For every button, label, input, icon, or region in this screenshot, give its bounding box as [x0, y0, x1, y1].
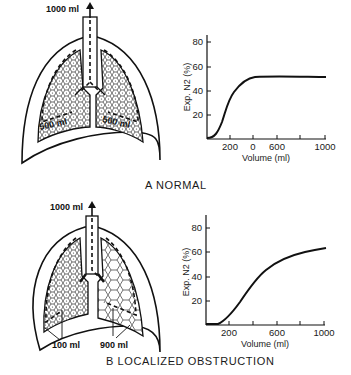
inflow-volume-label: 1000 ml — [50, 202, 83, 212]
svg-text:20: 20 — [192, 109, 203, 120]
obstruction-curve — [206, 248, 326, 324]
trachea — [86, 216, 98, 274]
panel-a-graphics: 1000 ml 500 ml 500 ml 20 40 60 80 200 0 — [0, 0, 351, 195]
chart-normal: 20 40 60 80 200 0 600 1000 Volume (ml) E… — [182, 35, 336, 163]
lung-diagram-normal: 1000 ml 500 ml 500 ml — [22, 2, 160, 163]
svg-text:Volume (ml): Volume (ml) — [241, 339, 289, 349]
svg-text:200: 200 — [221, 327, 237, 338]
right-volume-label: 900 ml — [100, 340, 128, 350]
outflow-arrow-icon — [86, 2, 94, 9]
right-lung-overdistended — [98, 238, 143, 336]
normal-curve — [207, 77, 326, 138]
svg-text:40: 40 — [192, 85, 203, 96]
left-volume-label: 100 ml — [52, 340, 80, 350]
caption-localized-obstruction: B LOCALIZED OBSTRUCTION — [106, 355, 274, 367]
right-lung — [96, 50, 143, 142]
svg-text:80: 80 — [191, 222, 202, 233]
svg-text:20: 20 — [191, 295, 202, 306]
panel-localized-obstruction: 1000 ml 100 ml 900 ml 20 40 60 80 200 60… — [0, 190, 351, 375]
svg-text:40: 40 — [191, 271, 202, 282]
svg-text:Exp. N2 (%): Exp. N2 (%) — [181, 248, 191, 297]
svg-text:200: 200 — [222, 141, 238, 152]
svg-text:Volume (ml): Volume (ml) — [242, 153, 290, 163]
svg-text:Exp. N2 (%): Exp. N2 (%) — [182, 63, 192, 112]
svg-text:600: 600 — [269, 141, 285, 152]
panel-normal: 1000 ml 500 ml 500 ml 20 40 60 80 200 0 — [0, 0, 351, 195]
inflow-volume-label: 1000 ml — [46, 4, 79, 14]
chart-localized-obstruction: 20 40 60 80 200 600 1000 Volume (ml) Exp… — [181, 215, 335, 349]
svg-text:60: 60 — [191, 246, 202, 257]
svg-text:1000: 1000 — [314, 141, 335, 152]
outflow-arrow-icon — [88, 201, 96, 208]
svg-text:0: 0 — [250, 141, 255, 152]
svg-text:60: 60 — [192, 61, 203, 72]
panel-b-graphics: 1000 ml 100 ml 900 ml 20 40 60 80 200 60… — [0, 190, 351, 375]
svg-text:1000: 1000 — [313, 327, 334, 338]
svg-text:80: 80 — [192, 36, 203, 47]
svg-text:600: 600 — [269, 327, 285, 338]
lung-diagram-obstruction: 1000 ml 100 ml 900 ml — [33, 201, 160, 352]
